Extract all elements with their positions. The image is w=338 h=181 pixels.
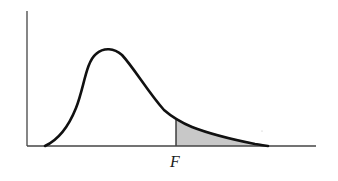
speck — [261, 130, 262, 131]
critical-value-label: F — [169, 153, 180, 170]
shaded-tail-region — [176, 120, 268, 146]
density-curve — [45, 49, 268, 146]
f-distribution-chart: F — [0, 0, 338, 181]
